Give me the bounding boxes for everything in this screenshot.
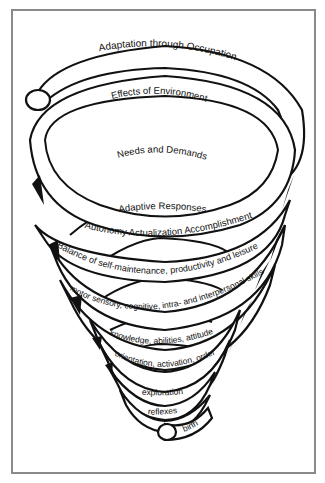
spiral-tube [26,46,304,440]
label-reflexes: reflexes [148,405,178,417]
spiral-diagram: Adaptation through Occupation Effects of… [0,0,325,483]
label-exploration: exploration [142,386,184,397]
